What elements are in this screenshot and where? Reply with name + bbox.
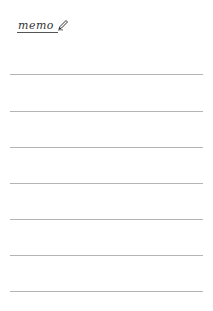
title-underline	[17, 32, 58, 33]
memo-page: memo	[0, 0, 213, 311]
ruled-line-4	[10, 183, 203, 184]
ruled-line-7	[10, 291, 203, 292]
memo-header: memo	[18, 16, 69, 32]
ruled-line-1	[10, 74, 203, 75]
ruled-line-3	[10, 147, 203, 148]
pencil-icon	[57, 19, 69, 31]
ruled-line-6	[10, 255, 203, 256]
ruled-line-5	[10, 219, 203, 220]
ruled-line-2	[10, 111, 203, 112]
memo-title: memo	[18, 20, 54, 32]
